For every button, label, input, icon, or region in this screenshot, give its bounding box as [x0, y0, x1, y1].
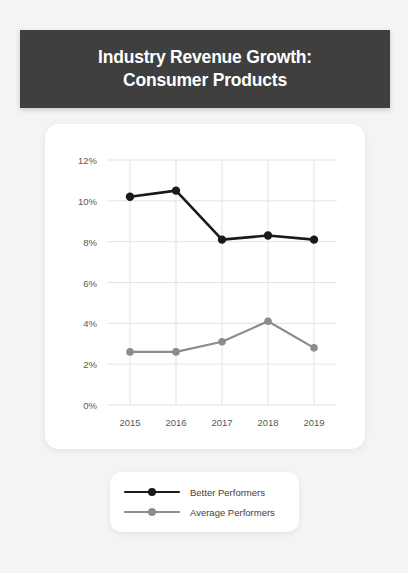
page-title: Industry Revenue Growth: Consumer Produc…: [80, 46, 330, 92]
legend-label: Average Performers: [190, 507, 275, 518]
data-point-marker: [264, 317, 272, 325]
data-point-marker: [264, 231, 272, 239]
y-axis-tick-label: 6%: [57, 277, 97, 288]
data-point-marker: [172, 186, 180, 194]
y-axis-tick-label: 0%: [57, 400, 97, 411]
poster-canvas: Industry Revenue Growth: Consumer Produc…: [0, 0, 408, 573]
data-point-marker: [218, 338, 226, 346]
chart-card: 0%2%4%6%8%10%12%20152016201720182019: [45, 124, 365, 449]
y-axis-tick-label: 10%: [57, 195, 97, 206]
legend-marker-icon: [124, 506, 180, 518]
title-banner: Industry Revenue Growth: Consumer Produc…: [20, 30, 390, 108]
data-point-marker: [310, 235, 318, 243]
x-axis-tick-label: 2018: [243, 417, 293, 428]
y-axis-tick-label: 4%: [57, 318, 97, 329]
data-point-marker: [172, 348, 180, 356]
x-axis-tick-label: 2015: [105, 417, 155, 428]
legend-item-better: Better Performers: [124, 486, 285, 498]
data-point-marker: [126, 348, 134, 356]
line-chart-plot: 0%2%4%6%8%10%12%20152016201720182019: [45, 124, 365, 449]
y-axis-tick-label: 2%: [57, 359, 97, 370]
x-axis-tick-label: 2017: [197, 417, 247, 428]
y-axis-tick-label: 8%: [57, 236, 97, 247]
y-axis-tick-label: 12%: [57, 155, 97, 166]
chart-legend: Better Performers Average Performers: [110, 472, 299, 532]
data-point-marker: [126, 193, 134, 201]
legend-label: Better Performers: [190, 487, 265, 498]
data-point-marker: [218, 235, 226, 243]
legend-marker-icon: [124, 486, 180, 498]
legend-item-average: Average Performers: [124, 506, 285, 518]
x-axis-tick-label: 2016: [151, 417, 201, 428]
x-axis-tick-label: 2019: [289, 417, 339, 428]
data-point-marker: [310, 344, 318, 352]
